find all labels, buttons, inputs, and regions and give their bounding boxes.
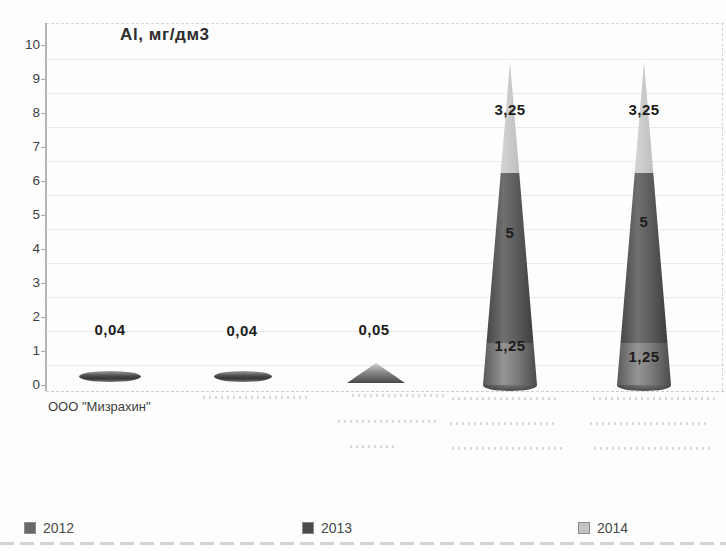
y-tick-mark [41,181,46,182]
faded-category-label [203,396,308,399]
legend-item-2014: 2014 [578,520,628,536]
chart-title: Al, мг/дм3 [120,25,210,45]
segment-2013 [483,173,537,343]
faded-category-label [452,397,560,400]
y-tick-mark [41,317,46,318]
legend-marker [302,522,314,534]
plot-floor-line [46,391,724,392]
faded-category-label [594,447,710,450]
legend-label: 2012 [43,520,74,536]
legend-marker [24,522,36,534]
faded-category-label [352,394,444,397]
legend-item-2013: 2013 [302,520,352,536]
gridline [46,93,724,94]
y-tick-label: 10 [8,37,40,52]
y-tick-label: 2 [8,309,40,324]
data-label: 1,25 [628,348,659,365]
faded-category-label [350,445,398,448]
gridline [46,161,724,162]
faded-category-label [338,420,438,423]
y-tick-label: 6 [8,173,40,188]
plot-top-border [46,23,724,24]
cone-2012-flat [214,371,272,382]
y-tick-mark [41,351,46,352]
gridline [46,195,724,196]
faded-category-label [452,447,564,450]
y-tick-label: 5 [8,207,40,222]
data-label: 0,05 [358,321,389,338]
gridline [46,127,724,128]
legend-marker [578,522,590,534]
data-label: 3,25 [628,101,659,118]
y-tick-label: 8 [8,105,40,120]
gridline [46,297,724,298]
cone-2012-flat [79,371,141,382]
data-label: 5 [640,213,649,230]
y-tick-label: 0 [8,377,40,392]
y-tick-label: 9 [8,71,40,86]
faded-category-label [590,422,710,425]
page-bottom-rule [0,542,726,545]
legend-item-2012: 2012 [24,520,74,536]
y-tick-mark [41,147,46,148]
faded-category-label [450,422,556,425]
y-tick-label: 4 [8,241,40,256]
data-label: 0,04 [226,322,257,339]
y-tick-mark [41,45,46,46]
y-tick-mark [41,79,46,80]
gridline [46,229,724,230]
data-label: 3,25 [494,101,525,118]
category-label-mizrahin: ООО "Мизрахин" [48,399,151,414]
data-label: 1,25 [494,337,525,354]
chart-page: 012345678910 Al, мг/дм3 0,040,040,051,25… [0,0,726,551]
legend-label: 2013 [321,520,352,536]
y-tick-mark [41,249,46,250]
y-tick-mark [41,113,46,114]
plot-right-border [722,23,723,391]
data-label: 0,04 [94,321,125,338]
faded-category-label [593,397,715,400]
y-tick-mark [41,385,46,386]
y-tick-label: 3 [8,275,40,290]
legend-label: 2014 [597,520,628,536]
data-label: 5 [506,224,515,241]
segment-2013 [617,173,671,343]
cone-2012-small [347,363,405,383]
gridline [46,263,724,264]
y-tick-mark [41,283,46,284]
y-tick-label: 7 [8,139,40,154]
y-tick-mark [41,215,46,216]
y-tick-label: 1 [8,343,40,358]
gridline [46,59,724,60]
